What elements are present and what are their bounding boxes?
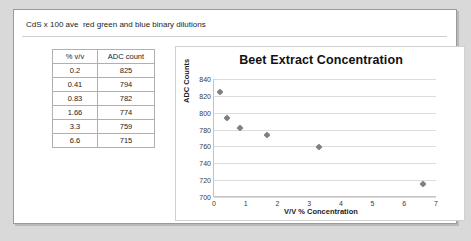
scatter-chart: Beet Extract Concentration ADC Counts 70… <box>175 46 465 221</box>
chart-x-axis-label: V/V % Concentration <box>176 207 466 216</box>
grid-line <box>214 96 436 97</box>
chart-title: Beet Extract Concentration <box>176 53 466 67</box>
document-panel: CdS x 100 ave red green and blue binary … <box>13 9 457 224</box>
y-axis-tick-label: 800 <box>199 109 211 116</box>
table-row: 0.83 782 <box>53 92 155 106</box>
x-axis-tick-label: 6 <box>402 200 406 207</box>
table-header-row: % v/v ADC count <box>53 50 155 64</box>
grid-line <box>214 180 436 181</box>
grid-line <box>214 113 436 114</box>
cell-adc: 825 <box>98 64 155 78</box>
data-point <box>315 144 322 151</box>
cell-percent: 0.83 <box>53 92 98 106</box>
chart-plot-area: 70072074076078080082084001234567 <box>213 79 435 197</box>
cell-percent: 1.66 <box>53 106 98 120</box>
grid-line <box>214 163 436 164</box>
data-point <box>223 114 230 121</box>
data-point <box>420 181 427 188</box>
header-title: CdS x 100 ave red green and blue binary … <box>26 20 206 29</box>
y-axis-tick-label: 740 <box>199 160 211 167</box>
cell-adc: 715 <box>98 134 155 148</box>
table-row: 3.3 759 <box>53 120 155 134</box>
cell-adc: 759 <box>98 120 155 134</box>
data-table: % v/v ADC count 0.2 825 0.41 794 0.83 78… <box>52 49 155 148</box>
x-axis-tick-label: 7 <box>434 200 438 207</box>
x-axis-tick-label: 0 <box>212 200 216 207</box>
x-axis-tick-label: 5 <box>371 200 375 207</box>
grid-line <box>214 130 436 131</box>
chart-y-axis-label: ADC Counts <box>182 59 191 103</box>
cell-adc: 774 <box>98 106 155 120</box>
y-axis-tick-label: 760 <box>199 143 211 150</box>
data-point <box>263 131 270 138</box>
column-header-adc: ADC count <box>98 50 155 64</box>
table-row: 0.41 794 <box>53 78 155 92</box>
cell-adc: 782 <box>98 92 155 106</box>
table-row: 6.6 715 <box>53 134 155 148</box>
screenshot-root: CdS x 100 ave red green and blue binary … <box>0 0 471 241</box>
cell-adc: 794 <box>98 78 155 92</box>
table-row: 0.2 825 <box>53 64 155 78</box>
column-header-percent: % v/v <box>53 50 98 64</box>
y-axis-tick-label: 700 <box>199 194 211 201</box>
cell-percent: 0.2 <box>53 64 98 78</box>
grid-line <box>214 79 436 80</box>
y-axis-tick-label: 720 <box>199 177 211 184</box>
x-axis-tick-label: 2 <box>275 200 279 207</box>
y-axis-tick-label: 820 <box>199 92 211 99</box>
grid-line <box>214 197 436 198</box>
y-axis-tick-label: 780 <box>199 126 211 133</box>
x-axis-tick-label: 3 <box>307 200 311 207</box>
x-axis-tick-label: 1 <box>244 200 248 207</box>
grid-line <box>214 146 436 147</box>
header-bar: CdS x 100 ave red green and blue binary … <box>22 17 447 37</box>
cell-percent: 3.3 <box>53 120 98 134</box>
table-row: 1.66 774 <box>53 106 155 120</box>
cell-percent: 6.6 <box>53 134 98 148</box>
x-axis-tick-label: 4 <box>339 200 343 207</box>
cell-percent: 0.41 <box>53 78 98 92</box>
y-axis-tick-label: 840 <box>199 76 211 83</box>
data-point <box>217 88 224 95</box>
